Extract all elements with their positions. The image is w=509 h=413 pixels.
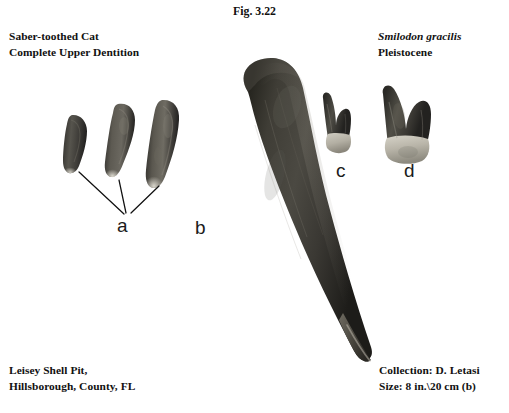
specimen-label-b: b — [195, 218, 206, 237]
specimen-label-c: c — [336, 161, 346, 180]
specimen-premolar-d — [372, 82, 448, 166]
locality-line-2: Hillsborough, County, FL — [9, 378, 135, 394]
specimen-incisor-3 — [141, 96, 187, 194]
collection-label: Collection: D. Letasi — [379, 362, 480, 378]
specimen-incisor-2 — [99, 100, 145, 186]
dentition-label: Complete Upper Dentition — [9, 44, 139, 60]
specimen-label-a: a — [117, 216, 128, 235]
specimen-incisor-1 — [58, 112, 98, 182]
epoch-label: Pleistocene — [378, 44, 461, 60]
specimen-premolar-c — [314, 88, 368, 160]
footer-right-block: Collection: D. Letasi Size: 8 in.\20 cm … — [379, 362, 480, 394]
header-right-block: Smilodon gracilis Pleistocene — [378, 28, 461, 60]
size-label: Size: 8 in.\20 cm (b) — [379, 378, 480, 394]
footer-left-block: Leisey Shell Pit, Hillsborough, County, … — [9, 362, 135, 394]
locality-line-1: Leisey Shell Pit, — [9, 362, 135, 378]
figure-caption: Fig. 3.22 — [0, 4, 509, 19]
specimen-label-d: d — [404, 161, 415, 180]
taxon-name-label: Smilodon gracilis — [378, 28, 461, 44]
header-left-block: Saber-toothed Cat Complete Upper Dentiti… — [9, 28, 139, 60]
common-name-label: Saber-toothed Cat — [9, 28, 139, 44]
figure-plate: Fig. 3.22 Saber-toothed Cat Complete Upp… — [0, 0, 509, 413]
